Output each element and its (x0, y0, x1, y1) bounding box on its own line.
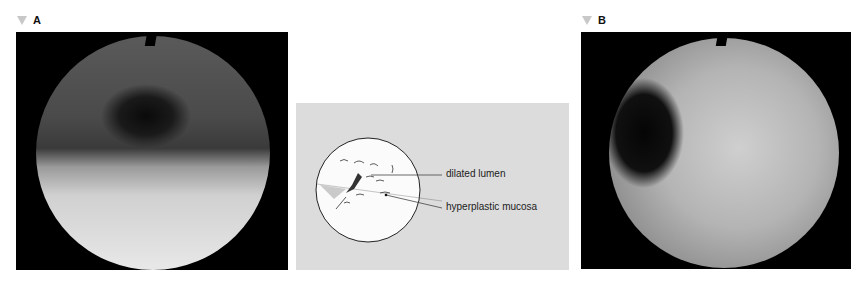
panel-a-label: A (17, 14, 41, 26)
scope-view-b (609, 38, 839, 268)
annotation-hyperplastic-mucosa: hyperplastic mucosa (446, 201, 537, 212)
schematic-diagram: dilated lumen hyperplastic mucosa (296, 103, 569, 270)
panel-b-label: B (582, 14, 606, 26)
scope-view-a (36, 36, 270, 270)
panel-a-letter: A (33, 14, 41, 26)
triangle-marker-icon (582, 16, 592, 25)
panel-b-letter: B (598, 14, 606, 26)
triangle-marker-icon (17, 16, 27, 25)
endoscopic-photo-b (581, 32, 851, 269)
endoscopic-photo-a (16, 32, 288, 270)
annotation-dilated-lumen: dilated lumen (446, 168, 505, 179)
lumen-drawing-icon (296, 103, 569, 270)
